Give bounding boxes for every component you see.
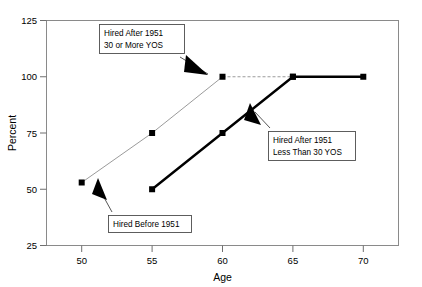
x-tick-label-60: 60	[217, 255, 228, 266]
annotation-line-1: Hired After 1951	[104, 29, 164, 38]
x-tick-label-70: 70	[358, 255, 369, 266]
data-point-marker	[79, 180, 85, 186]
data-point-marker	[220, 74, 226, 80]
arrow-head-icon	[92, 178, 107, 200]
annotation-line-1: Hired Before 1951	[113, 220, 180, 229]
line-chart: 125 100 75 50 25 Percent 50 55 60 65 70 …	[0, 0, 422, 287]
series-30-or-more-yos	[79, 74, 296, 186]
series-30-or-more-yos-line	[82, 77, 223, 183]
x-axis-ticks	[82, 246, 364, 253]
annotation-line-2: Less Than 30 YOS	[273, 148, 342, 157]
data-point-marker	[149, 130, 155, 136]
annotation-30-or-more-yos: Hired After 1951 30 or More YOS	[100, 25, 209, 76]
y-tick-label-25: 25	[26, 240, 37, 251]
data-point-marker	[149, 186, 155, 192]
y-tick-label-100: 100	[21, 71, 37, 82]
annotation-less-than-30-yos: Hired After 1951 Less Than 30 YOS	[244, 103, 356, 161]
x-tick-label-65: 65	[288, 255, 299, 266]
y-tick-label-125: 125	[21, 15, 37, 26]
chart-screenshot: 125 100 75 50 25 Percent 50 55 60 65 70 …	[0, 0, 422, 287]
y-axis-title: Percent	[6, 115, 18, 151]
x-tick-label-50: 50	[76, 255, 87, 266]
annotation-line-1: Hired After 1951	[273, 136, 333, 145]
x-axis-title: Age	[213, 271, 232, 283]
data-point-marker	[360, 74, 366, 80]
data-point-marker	[220, 130, 226, 136]
data-point-marker	[290, 74, 296, 80]
x-tick-label-55: 55	[147, 255, 158, 266]
y-axis-ticks	[40, 21, 47, 246]
arrow-head-icon	[244, 103, 261, 125]
y-tick-label-50: 50	[26, 184, 37, 195]
y-tick-label-75: 75	[26, 128, 37, 139]
annotation-line-2: 30 or More YOS	[104, 41, 164, 50]
annotation-hired-before-1951: Hired Before 1951	[92, 178, 192, 233]
arrow-head-icon	[184, 55, 208, 75]
